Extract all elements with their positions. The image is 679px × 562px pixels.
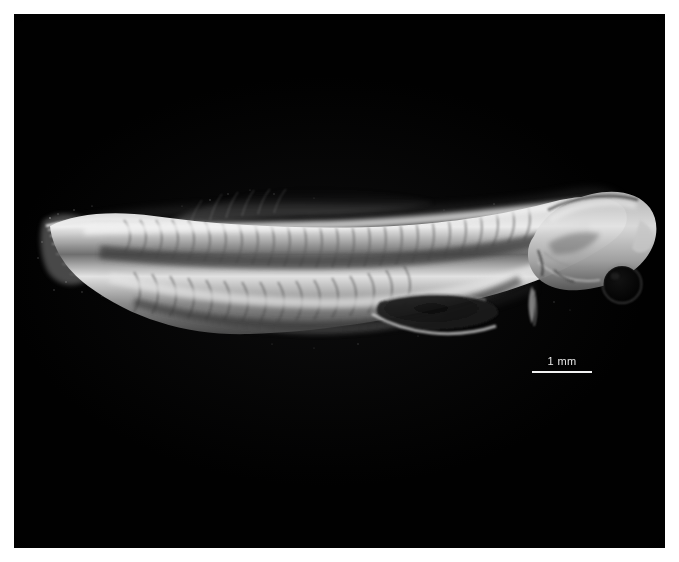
fish-larva-specimen — [14, 14, 665, 548]
eye — [604, 266, 641, 302]
scale-bar-label: 1 mm — [523, 355, 601, 368]
eye-highlight — [611, 272, 620, 279]
image-canvas: 1 mm — [0, 0, 679, 562]
scale-bar: 1 mm — [523, 355, 601, 373]
scale-bar-line — [532, 371, 592, 373]
specimen-group — [37, 189, 656, 349]
micrograph-plate: 1 mm — [14, 14, 665, 548]
